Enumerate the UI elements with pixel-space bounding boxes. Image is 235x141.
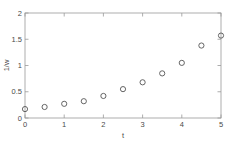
x-tick-label: 1 xyxy=(62,120,66,129)
x-tick-label: 3 xyxy=(141,120,145,129)
y-tick-label: 2 xyxy=(18,9,22,18)
data-point-marker xyxy=(101,93,106,98)
y-tick-label: 1.5 xyxy=(12,35,22,44)
x-tick-label: 0 xyxy=(23,120,27,129)
data-point-marker xyxy=(120,87,125,92)
y-tick-label: 0 xyxy=(18,114,22,123)
scatter-plot: 01234500.511.52t1/w xyxy=(0,0,235,141)
data-point-marker xyxy=(160,71,165,76)
data-series-points xyxy=(22,33,223,112)
figure-container: 01234500.511.52t1/w xyxy=(0,0,235,141)
plot-frame xyxy=(25,13,221,118)
x-tick-label: 5 xyxy=(219,120,223,129)
data-point-marker xyxy=(42,104,47,109)
data-point-marker xyxy=(140,80,145,85)
data-point-marker xyxy=(62,101,67,106)
x-tick-label: 4 xyxy=(180,120,184,129)
y-axis-title: 1/w xyxy=(2,59,11,71)
x-tick-label: 2 xyxy=(101,120,105,129)
data-point-marker xyxy=(199,43,204,48)
x-axis-title: t xyxy=(122,131,125,140)
y-tick-label: 1 xyxy=(18,61,22,70)
data-point-marker xyxy=(179,60,184,65)
data-point-marker xyxy=(81,99,86,104)
y-tick-label: 0.5 xyxy=(12,87,22,96)
